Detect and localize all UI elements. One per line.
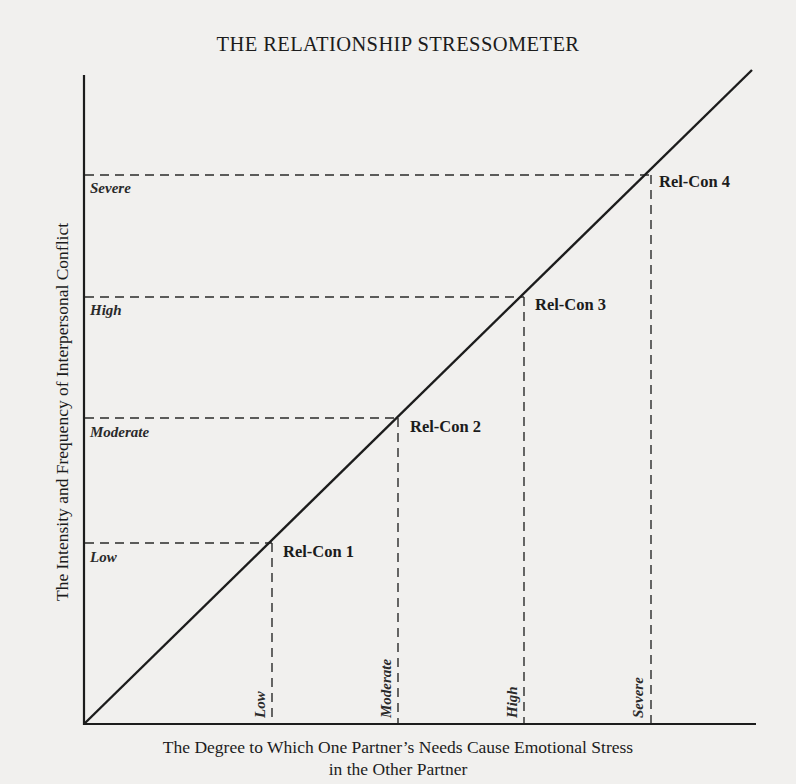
x-axis-label-line-1: The Degree to Which One Partner’s Needs … [0,736,796,758]
y-tick-high: High [90,302,122,319]
point-label-rel-con-3: Rel-Con 3 [535,295,606,315]
x-tick-severe: Severe [630,677,647,718]
x-tick-low: Low [252,691,269,718]
y-tick-moderate: Moderate [90,424,149,441]
y-tick-low: Low [90,549,117,566]
y-tick-severe: Severe [90,180,131,197]
y-axis-label: The Intensity and Frequency of Interpers… [52,223,73,601]
point-label-rel-con-2: Rel-Con 2 [410,417,481,437]
point-label-rel-con-1: Rel-Con 1 [283,542,354,562]
x-axis-label: The Degree to Which One Partner’s Needs … [0,736,796,780]
stress-line [84,70,752,724]
plot-area [0,0,796,784]
x-axis-label-line-2: in the Other Partner [0,758,796,780]
point-label-rel-con-4: Rel-Con 4 [659,172,730,192]
x-tick-high: High [504,686,521,718]
x-tick-moderate: Moderate [378,659,395,718]
